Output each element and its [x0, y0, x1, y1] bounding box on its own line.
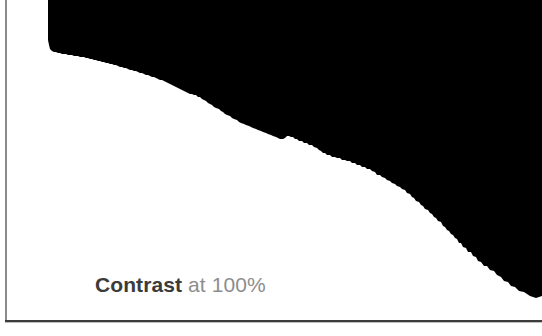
panel-bottom-shadow: [5, 322, 542, 323]
high-contrast-photo: [0, 0, 542, 322]
caption: Contrast at 100%: [95, 273, 266, 297]
contrast-preview-panel: Contrast at 100%: [0, 0, 542, 336]
image-preview-area[interactable]: [0, 0, 542, 322]
caption-setting-value: at 100%: [182, 273, 266, 296]
caption-setting-name: Contrast: [95, 273, 182, 296]
panel-left-border: [5, 0, 7, 322]
